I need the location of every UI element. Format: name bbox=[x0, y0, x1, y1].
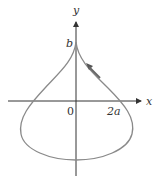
y-axis-label: y bbox=[72, 4, 80, 17]
origin-label: 0 bbox=[67, 105, 74, 118]
direction-arrow-shaft bbox=[89, 67, 100, 78]
curve-diagram: y x b 0 2a bbox=[0, 0, 159, 183]
y-tick-label: b bbox=[66, 37, 73, 50]
x-axis-label: x bbox=[146, 95, 153, 108]
x-tick-label: 2a bbox=[106, 105, 121, 118]
